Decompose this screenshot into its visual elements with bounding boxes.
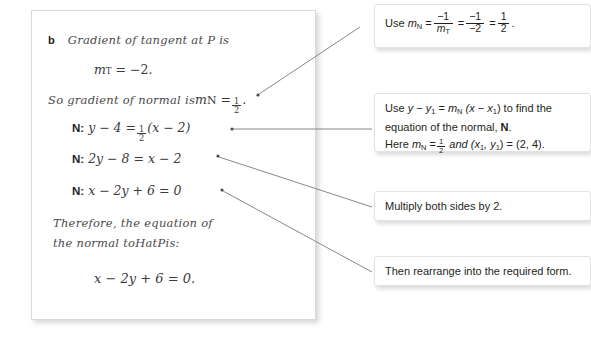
equation-2-body: 2y − 8 = x − 2	[88, 151, 181, 166]
step-letter-b: b	[48, 34, 55, 46]
point-label-p: P	[157, 236, 165, 250]
m-t-symbol: m	[94, 62, 106, 77]
callout-1-prefix: Use	[385, 17, 408, 29]
callout-2-fraction: 12	[437, 138, 445, 155]
callout-2-equals: =	[435, 102, 448, 114]
fraction-denominator: −2	[466, 24, 484, 35]
callout-2-and-x: and (x	[446, 138, 480, 150]
equation-label-n: N:	[72, 122, 84, 134]
callout-2-m2-sub: N	[421, 143, 426, 152]
equation-label-n: N:	[72, 153, 84, 165]
callout-multiply-both-sides: Multiply both sides by 2.	[374, 191, 591, 221]
callout-2-line-1: Use y − y1 = mN (x − x1) to find the	[385, 101, 582, 120]
fraction-denominator: 2	[232, 106, 241, 114]
callout-2-minus: −	[413, 102, 426, 114]
conclusion-line-1: Therefore, the equation of	[53, 216, 213, 230]
fraction-denominator: 2	[437, 147, 445, 155]
normal-equation-step-3: N: x − 2y + 6 = 0	[72, 183, 181, 198]
equation-1-fraction: 12	[137, 125, 146, 143]
callout-2-use: Use	[385, 102, 408, 114]
callout-2-eq3: =	[430, 138, 436, 150]
denominator-m-sub: T	[445, 28, 449, 36]
callout-2-bracket: (x − x	[462, 102, 492, 114]
conclusion-line-2: the normal to H at P is:	[53, 236, 180, 250]
callout-1-eq-2: =	[458, 17, 464, 29]
callout-2-line2-b: .	[509, 121, 512, 133]
callout-1-m: m	[408, 17, 417, 29]
callout-2-line-2: equation of the normal, N.	[385, 120, 582, 135]
callout-2-here: Here	[385, 138, 412, 150]
conclusion-text-b: at	[146, 236, 158, 250]
m-n-equals: =	[220, 92, 230, 107]
normal-equation-step-1: N: y − 4 =12(x − 2)	[72, 120, 190, 143]
callout-2-line2-a: equation of the normal,	[385, 121, 501, 133]
callout-2-line1-end: ) to find the	[497, 102, 552, 114]
normal-gradient-statement: So gradient of normal is mN =12.	[48, 92, 246, 115]
m-n-symbol: m	[195, 92, 207, 107]
m-n-subscript: N	[207, 94, 217, 107]
callout-2-normal-label: N	[501, 121, 509, 133]
callout-1-fraction-1: −1mT	[434, 12, 453, 36]
tangent-gradient-equation: mT = −2.	[94, 62, 152, 77]
conclusion-text-a: the normal to	[53, 236, 135, 250]
callout-1-eq-3: =	[489, 17, 495, 29]
normal-equation-step-2: N: 2y − 8 = x − 2	[72, 151, 181, 166]
fraction-denominator: 2	[137, 134, 146, 142]
callout-1-fraction-2: −1−2	[466, 12, 484, 35]
callout-1-fraction-3: 12	[498, 12, 510, 35]
callout-gradient-of-normal: Use mN =−1mT =−1−2 =12.	[374, 4, 591, 48]
fraction-denominator: mT	[434, 24, 453, 36]
m-t-value: = −2.	[116, 62, 153, 77]
callout-1-eq-1: =	[425, 17, 431, 29]
fraction-denominator: 2	[498, 24, 510, 35]
solution-step-b: b Gradient of tangent at P is	[48, 33, 229, 47]
callout-rearrange: Then rearrange into the required form.	[374, 256, 591, 286]
step-statement: Gradient of tangent at P is	[68, 33, 230, 47]
callout-1-text: Use mN =−1mT =−1−2 =12.	[385, 12, 582, 36]
equation-1-rhs: (x − 2)	[147, 120, 190, 135]
callout-2-m: m	[448, 102, 457, 114]
callout-3-text: Multiply both sides by 2.	[385, 199, 582, 214]
equation-1-lhs: y − 4 =	[88, 120, 136, 135]
m-t-subscript: T	[106, 66, 112, 76]
callout-2-m2: m	[412, 138, 421, 150]
callout-2-coords: ) = (2, 4).	[500, 138, 545, 150]
curve-label-h: H	[135, 236, 145, 250]
equation-label-n: N:	[72, 185, 84, 197]
equation-3-body: x − 2y + 6 = 0	[88, 183, 181, 198]
m-n-period: .	[242, 92, 246, 107]
conclusion-text-c: is:	[165, 236, 179, 250]
m-n-fraction: 12	[232, 97, 241, 115]
callout-2-comma-y: , y	[484, 138, 496, 150]
callout-point-slope-form: Use y − y1 = mN (x − x1) to find the equ…	[374, 93, 591, 152]
callout-2-line-3: Here mN =12 and (x1, y1) = (2, 4).	[385, 137, 582, 156]
callout-1-period: .	[511, 17, 514, 29]
worked-solution-panel: b Gradient of tangent at P is mT = −2. S…	[31, 10, 316, 320]
callout-1-m-sub: N	[417, 22, 422, 31]
callout-4-text: Then rearrange into the required form.	[385, 264, 582, 279]
normal-gradient-text: So gradient of normal is	[48, 93, 195, 107]
final-answer: x − 2y + 6 = 0.	[94, 271, 195, 286]
